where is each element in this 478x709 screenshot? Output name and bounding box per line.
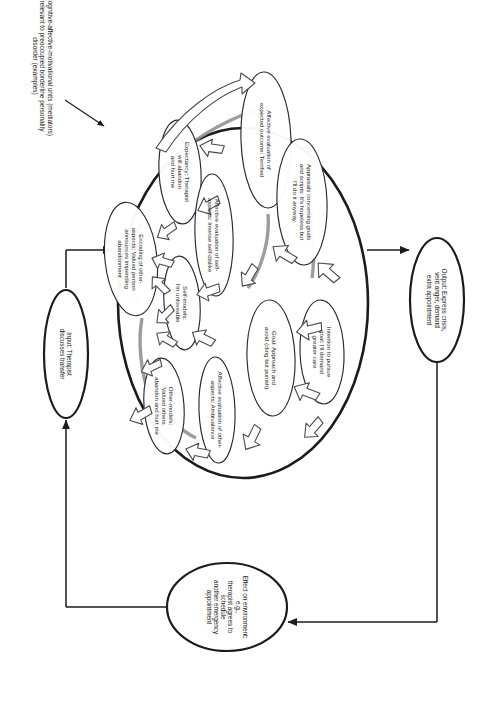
output-node-ellipse <box>410 238 464 362</box>
figure-canvas: Cognitive-affective-motivational units (… <box>0 0 478 709</box>
input-node-ellipse <box>44 290 88 418</box>
effect-node-ellipse <box>167 563 287 651</box>
diagram-svg <box>0 0 478 709</box>
connector-effect-to-input <box>66 420 168 607</box>
connector-caption-pointer <box>65 100 104 126</box>
